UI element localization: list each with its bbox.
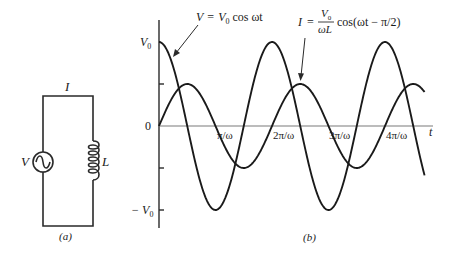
waveform-plot: V0 0 − V0 π/ω 2π/ω 3π/ω 4π/ω t V=V0cos ω…	[131, 7, 433, 244]
x-axis-label: t	[429, 125, 433, 139]
x-tick-2pi: 2π/ω	[273, 129, 294, 141]
voltage-equation: V=V0cos ωt	[196, 10, 263, 26]
current-equation: I = V0 ωL cos(ωt − π/2)	[297, 7, 400, 35]
current-label: I	[64, 79, 70, 94]
voltage-arrow-icon	[173, 25, 198, 57]
inductor-label: L	[101, 154, 109, 169]
y-label-v0: V0	[140, 35, 151, 51]
fraction-numerator: V0	[321, 7, 332, 22]
caption-b: (b)	[303, 231, 316, 244]
caption-a: (a)	[59, 230, 72, 243]
svg-text:=: =	[307, 15, 314, 29]
x-tick-4pi: 4π/ω	[386, 129, 407, 141]
source-label: V	[21, 154, 31, 169]
inductor-coil-icon	[89, 141, 100, 180]
current-arrow-icon	[298, 38, 305, 81]
svg-text:cos(ωt − π/2): cos(ωt − π/2)	[337, 15, 400, 29]
svg-text:I: I	[297, 15, 303, 29]
circuit-diagram: I V L (a)	[21, 79, 109, 243]
circuit-wire	[43, 96, 93, 226]
ac-source-icon	[33, 152, 53, 172]
figure-canvas: I V L (a) V0 0 − V0 π/ω 2π/ω 3π/ω 4π/ω t…	[0, 0, 451, 256]
y-label-zero: 0	[145, 119, 151, 133]
fraction-denominator: ωL	[318, 23, 332, 35]
y-label-neg-v0: − V0	[131, 203, 153, 219]
